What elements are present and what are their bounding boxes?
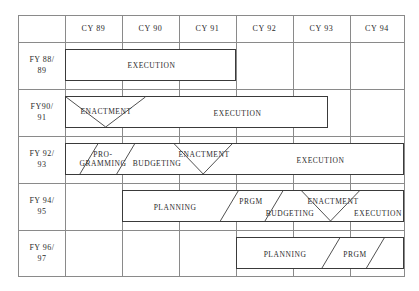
column-header-cy89: CY 89 [65,16,122,42]
chart-frame: CY 89 CY 90 CY 91 CY 92 CY 93 CY 94 FY 8… [18,15,405,277]
row-label-fy9697-line1: FY 96/ [19,242,65,253]
bar-fy9091: ENACTMENT EXECUTION [65,96,328,128]
column-header-cy91: CY 91 [179,16,236,42]
grid-hline-row1 [19,89,404,90]
bar-fy9293-enactment-label: ENACTMENT [176,150,232,159]
bar-fy9495-execution-label: EXECUTION [351,209,405,218]
bar-fy8889-execution-label: EXECUTION [66,61,237,70]
row-label-fy8889-line1: FY 88/ [19,54,65,65]
column-header-cy93: CY 93 [293,16,350,42]
bar-fy9495: PLANNING PRGM BUDGETING ENACTMENT EXECUT… [122,190,404,222]
row-label-fy9697: FY 96/ 97 [19,242,65,264]
grid-hline-row2 [19,136,404,137]
row-label-fy9495-line2: 95 [19,206,65,217]
bar-fy9495-prgm-label: PRGM [233,197,269,206]
bar-fy9091-enactment-label: ENACTMENT [66,107,146,116]
grid-hline-row3 [19,183,404,184]
bar-fy9293-programming-label: PRO- GRAMMING [72,150,134,168]
grid-hline-header [19,42,404,43]
bar-fy9293-budgeting-label: BUDGETING [128,159,186,168]
bar-fy9293-programming-line1: PRO- [72,150,134,159]
bar-fy9495-enactment-label: ENACTMENT [305,197,361,206]
column-header-cy92: CY 92 [236,16,293,42]
row-label-fy9697-line2: 97 [19,253,65,264]
column-header-cy94: CY 94 [350,16,404,42]
bar-fy9697-prgm-label: PRGM [337,250,373,259]
row-label-fy9495: FY 94/ 95 [19,195,65,217]
bar-fy9293: PRO- GRAMMING BUDGETING ENACTMENT EXECUT… [65,143,404,175]
bar-fy9495-budgeting-label: BUDGETING [259,209,321,218]
row-label-fy9091: FY90/ 91 [19,101,65,123]
row-label-fy9293-line1: FY 92/ [19,148,65,159]
bar-fy9697: PLANNING PRGM [236,237,404,269]
bar-fy8889: EXECUTION [65,49,236,81]
column-header-cy90: CY 90 [122,16,179,42]
budget-cycle-gantt-chart: CY 89 CY 90 CY 91 CY 92 CY 93 CY 94 FY 8… [0,0,419,291]
row-label-fy8889-line2: 89 [19,65,65,76]
row-label-fy9293-line2: 93 [19,159,65,170]
row-label-fy9091-line2: 91 [19,112,65,123]
row-label-fy9293: FY 92/ 93 [19,148,65,170]
row-label-fy9091-line1: FY90/ [19,101,65,112]
bar-fy9293-programming-line2: GRAMMING [72,159,134,168]
bar-fy9495-planning-label: PLANNING [123,203,227,212]
bar-fy9697-planning-label: PLANNING [237,250,333,259]
row-label-fy8889: FY 88/ 89 [19,54,65,76]
bar-fy9293-execution-label: EXECUTION [236,156,405,165]
row-label-fy9495-line1: FY 94/ [19,195,65,206]
bar-fy9091-execution-label: EXECUTION [146,109,329,118]
grid-hline-row4 [19,230,404,231]
